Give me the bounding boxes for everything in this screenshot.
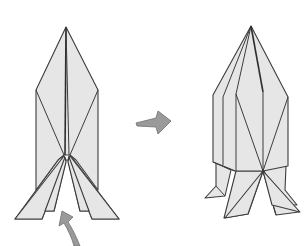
body-main: [213, 26, 288, 171]
curved-lift-arrow-icon: [59, 211, 80, 246]
figure-after: [205, 26, 300, 218]
transition-arrow-icon: [136, 111, 171, 134]
figure-before: [15, 27, 119, 219]
center-crease-left: [65, 27, 66, 155]
origami-diagram: Origami folding step: rocket/figure base…: [0, 0, 305, 246]
